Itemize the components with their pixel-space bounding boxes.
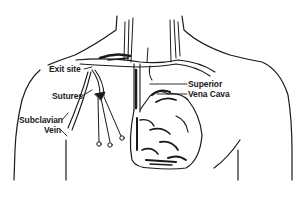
label-sutures: Sutures bbox=[52, 92, 83, 101]
leader-lines bbox=[61, 67, 187, 136]
anatomy-illustration bbox=[0, 0, 301, 212]
sutures bbox=[95, 92, 124, 147]
label-vena-cava: Vena Cava bbox=[188, 90, 230, 99]
label-vein: Vein bbox=[44, 126, 61, 135]
label-subclavian: Subclavian bbox=[19, 116, 63, 125]
heart bbox=[130, 91, 202, 169]
neck-vessels bbox=[124, 18, 180, 62]
label-exit-site: Exit site bbox=[49, 65, 81, 74]
label-superior: Superior bbox=[188, 80, 222, 89]
